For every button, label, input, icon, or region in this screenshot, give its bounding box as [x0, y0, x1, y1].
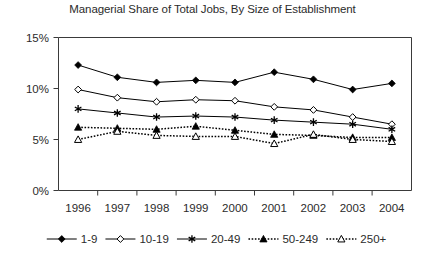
data-point-1-9-1997 [114, 74, 121, 81]
data-point-10-19-2002 [310, 107, 317, 114]
x-tick-label: 2000 [222, 202, 248, 214]
data-point-1-9-2000 [232, 79, 239, 86]
data-point-1-9-2003 [349, 86, 356, 93]
legend-label-10-19: 10-19 [139, 233, 168, 245]
legend-entry-20-49[interactable]: 20-49 [177, 233, 240, 245]
chart-figure: Managerial Share of Total Jobs, By Size … [0, 0, 425, 259]
data-point-1-9-1999 [192, 77, 199, 84]
data-point-1-9-1998 [153, 79, 160, 86]
legend-entry-250+[interactable]: 250+ [326, 233, 386, 245]
data-point-1-9-2001 [271, 69, 278, 76]
x-tick-label: 1997 [105, 202, 131, 214]
legend-marker-10-19 [117, 236, 124, 243]
data-point-1-9-2004 [388, 80, 395, 87]
data-point-10-19-2001 [271, 103, 278, 110]
series-10-19 [75, 86, 396, 127]
data-point-1-9-2002 [310, 76, 317, 83]
data-point-10-19-2003 [349, 114, 356, 121]
series-layer [75, 62, 396, 147]
legend-entry-10-19[interactable]: 10-19 [105, 233, 168, 245]
y-axis-labels: 15% 10% 5% 0% [26, 32, 49, 197]
y-tick-label: 15% [26, 32, 49, 44]
y-tick-label: 5% [32, 134, 49, 146]
x-axis-ticks [98, 191, 372, 196]
data-point-10-19-2000 [232, 97, 239, 104]
legend-label-20-49: 20-49 [211, 233, 240, 245]
legend-label-50-249: 50-249 [282, 233, 318, 245]
data-point-50-249-1996 [75, 124, 82, 131]
x-tick-label: 2003 [340, 202, 366, 214]
legend-label-1-9: 1-9 [81, 233, 98, 245]
data-point-10-19-1998 [153, 98, 160, 105]
data-point-250+-1996 [75, 136, 82, 143]
x-tick-label: 1999 [183, 202, 209, 214]
chart-legend: 1-910-1920-4950-249250+ [47, 233, 387, 245]
y-axis-ticks [54, 38, 59, 191]
x-axis-labels: 1996 1997 1998 1999 2000 2001 2002 2003 … [65, 202, 405, 214]
legend-marker-1-9 [58, 236, 65, 243]
data-point-10-19-1999 [192, 96, 199, 103]
x-tick-label: 2004 [379, 202, 405, 214]
line-chart-plot: 15% 10% 5% 0% 1996 1997 1998 1999 2000 2… [0, 0, 425, 259]
data-point-250+-2000 [231, 133, 238, 140]
x-tick-label: 1996 [65, 202, 91, 214]
x-tick-label: 2002 [301, 202, 327, 214]
legend-label-250+: 250+ [360, 233, 386, 245]
y-tick-label: 0% [32, 185, 49, 197]
data-point-10-19-1997 [114, 94, 121, 101]
series-1-9 [75, 62, 396, 93]
x-tick-label: 2001 [261, 202, 287, 214]
data-point-1-9-1996 [75, 62, 82, 69]
legend-entry-1-9[interactable]: 1-9 [47, 233, 98, 245]
y-tick-label: 10% [26, 83, 49, 95]
legend-entry-50-249[interactable]: 50-249 [248, 233, 318, 245]
data-point-10-19-1996 [75, 86, 82, 93]
x-tick-label: 1998 [144, 202, 170, 214]
